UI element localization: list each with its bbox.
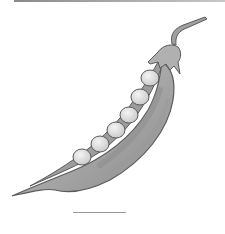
pea: [107, 122, 125, 138]
pea: [120, 107, 138, 123]
pea: [131, 89, 149, 105]
pea: [91, 136, 109, 152]
pea: [73, 149, 91, 165]
bottom-rule-line: [73, 212, 126, 213]
pea: [141, 70, 159, 86]
pea-pod-illustration: [0, 0, 225, 234]
stem: [172, 17, 207, 45]
